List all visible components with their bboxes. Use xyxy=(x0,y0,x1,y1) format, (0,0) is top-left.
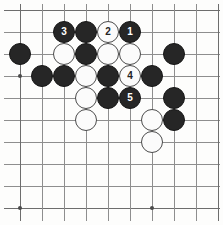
stone-white[interactable] xyxy=(141,109,163,131)
stone-white-move-4[interactable]: 4 xyxy=(119,65,141,87)
stone-black[interactable] xyxy=(163,109,185,131)
stone-black[interactable] xyxy=(75,21,97,43)
stone-black-move-1[interactable]: 1 xyxy=(119,21,141,43)
stone-white[interactable] xyxy=(119,43,141,65)
stone-move-number: 1 xyxy=(127,27,133,37)
go-board-diagram: 32145 xyxy=(0,0,223,225)
stone-black[interactable] xyxy=(163,87,185,109)
stone-white[interactable] xyxy=(53,43,75,65)
stone-white[interactable] xyxy=(75,65,97,87)
stone-white[interactable] xyxy=(75,87,97,109)
stone-black[interactable] xyxy=(97,65,119,87)
stone-black[interactable] xyxy=(75,43,97,65)
stone-black[interactable] xyxy=(141,65,163,87)
stone-black[interactable] xyxy=(9,43,31,65)
stone-black[interactable] xyxy=(97,87,119,109)
stone-move-number: 4 xyxy=(127,71,133,81)
board-stones: 32145 xyxy=(0,0,223,225)
stone-move-number: 2 xyxy=(105,27,111,37)
stone-white[interactable] xyxy=(75,109,97,131)
stone-black[interactable] xyxy=(31,65,53,87)
stone-black-move-5[interactable]: 5 xyxy=(119,87,141,109)
stone-white[interactable] xyxy=(141,131,163,153)
stone-black[interactable] xyxy=(163,43,185,65)
stone-white-move-2[interactable]: 2 xyxy=(97,21,119,43)
stone-white[interactable] xyxy=(97,43,119,65)
stone-move-number: 5 xyxy=(127,93,133,103)
stone-black[interactable] xyxy=(53,65,75,87)
stone-black-move-3[interactable]: 3 xyxy=(53,21,75,43)
stone-move-number: 3 xyxy=(61,27,67,37)
